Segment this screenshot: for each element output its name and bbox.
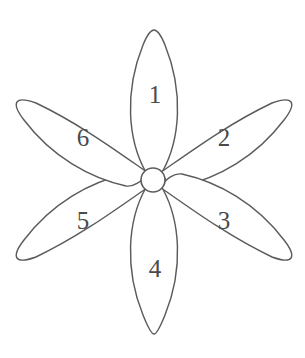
flower-center-circle[interactable] [141,168,165,192]
petal-label-3: 3 [218,207,231,234]
flower-diagram-figure: 1 2 3 4 5 6 [0,0,305,358]
petal-label-5: 5 [77,207,90,234]
flower-svg-canvas: 1 2 3 4 5 6 [0,0,305,358]
petal-label-4: 4 [149,255,162,282]
petal-label-1: 1 [149,81,162,108]
petal-label-6: 6 [77,124,90,151]
petal-label-2: 2 [218,124,231,151]
